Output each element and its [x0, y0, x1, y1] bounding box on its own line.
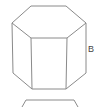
left-front-edge — [31, 38, 32, 89]
label-b: B — [88, 44, 94, 54]
hexagonal-prism — [12, 6, 86, 89]
left-back-edge — [12, 23, 13, 73]
top-face — [12, 6, 86, 38]
partial-shape-below — [22, 100, 78, 107]
diagram-canvas: B — [0, 0, 100, 107]
right-front-edge — [66, 38, 67, 89]
bottom-edge — [13, 73, 86, 89]
